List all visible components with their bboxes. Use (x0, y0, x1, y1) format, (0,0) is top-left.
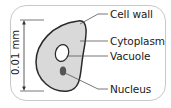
arrow-down-icon (22, 87, 26, 92)
label-nucleus: Nucleus (110, 84, 151, 95)
nucleus (60, 67, 66, 76)
label-vacuole: Vacuole (110, 51, 150, 62)
label-cytoplasm: Cytoplasm (110, 36, 165, 47)
arrow-up-icon (22, 20, 26, 25)
scale-label: 0.01 mm (11, 35, 21, 75)
label-cell-wall: Cell wall (110, 9, 153, 20)
